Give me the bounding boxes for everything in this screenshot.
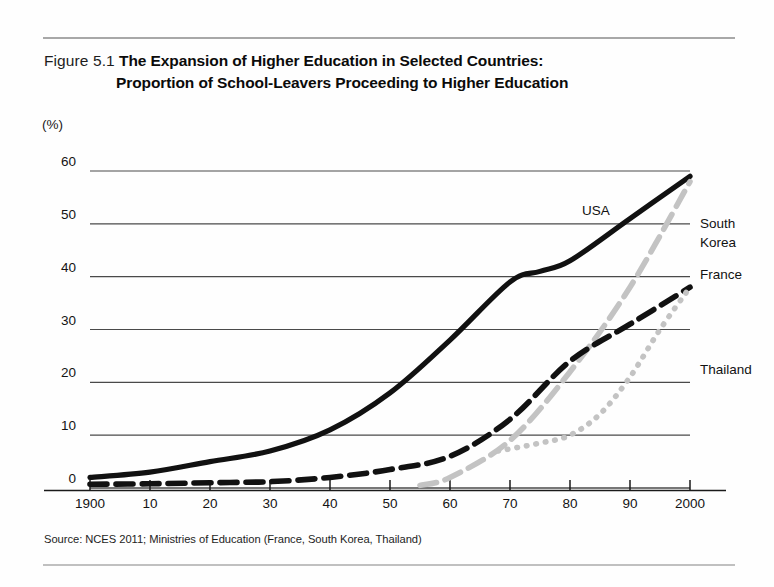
figure-page: Figure 5.1 The Expansion of Higher Educa… bbox=[0, 0, 774, 587]
y-axis-tick-label: 50 bbox=[42, 207, 76, 222]
y-axis-tick-label: 30 bbox=[42, 313, 76, 328]
x-axis-tick-label: 50 bbox=[360, 496, 420, 511]
x-axis-tick-label: 2000 bbox=[660, 496, 720, 511]
x-axis-tick-label: 80 bbox=[540, 496, 600, 511]
x-axis-tick-label: 1900 bbox=[60, 496, 120, 511]
series-label-line: South bbox=[700, 214, 736, 233]
x-axis-tick-label: 70 bbox=[480, 496, 540, 511]
x-axis-tick-label: 30 bbox=[240, 496, 300, 511]
series-label-line: Korea bbox=[700, 233, 736, 252]
series-line-usa bbox=[90, 176, 690, 477]
x-axis-tick-label: 40 bbox=[300, 496, 360, 511]
x-axis-tick-label: 10 bbox=[120, 496, 180, 511]
y-axis-tick-label: 10 bbox=[42, 418, 76, 433]
footer-divider bbox=[43, 564, 735, 566]
series-label-usa: USA bbox=[582, 203, 610, 218]
x-axis-tick-label: 60 bbox=[420, 496, 480, 511]
chart-plot-area: 010203040506019001020304050607080902000U… bbox=[0, 0, 774, 587]
y-axis-tick-label: 60 bbox=[42, 154, 76, 169]
x-axis-tick-label: 90 bbox=[600, 496, 660, 511]
series-label-france: France bbox=[700, 267, 742, 282]
series-label-thailand: Thailand bbox=[700, 362, 752, 377]
y-axis-tick-label: 20 bbox=[42, 365, 76, 380]
y-axis-tick-label: 0 bbox=[42, 471, 76, 486]
x-axis-tick-label: 20 bbox=[180, 496, 240, 511]
series-line-thailand bbox=[498, 287, 690, 451]
series-label-south-korea: SouthKorea bbox=[700, 214, 736, 252]
source-note: Source: NCES 2011; Ministries of Educati… bbox=[44, 533, 422, 545]
series-line-france bbox=[90, 287, 690, 484]
y-axis-tick-label: 40 bbox=[42, 260, 76, 275]
